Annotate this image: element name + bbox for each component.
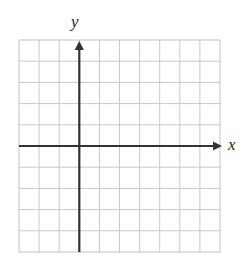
x-axis-label: x <box>228 136 236 153</box>
y-axis-label: y <box>71 13 79 30</box>
coordinate-plane-canvas <box>0 0 244 268</box>
coordinate-plane-figure: y x <box>0 0 244 268</box>
